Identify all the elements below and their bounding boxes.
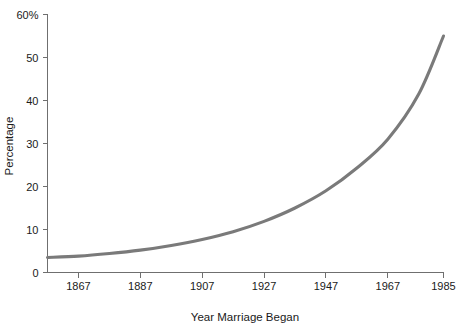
x-axis-ticks: [78, 273, 443, 278]
x-tick-label: 1985: [431, 280, 455, 292]
data-curve-percentage: [48, 36, 444, 257]
line-chart: 0102030405060% 1867188719071927194719671…: [0, 0, 467, 326]
y-tick-label: 0: [32, 267, 38, 279]
data-series-group: [48, 36, 444, 257]
y-axis-ticks: [43, 15, 48, 273]
y-tick-label: 10: [26, 224, 38, 236]
x-axis-tick-labels: 1867188719071927194719671985: [66, 280, 456, 292]
x-tick-label: 1967: [376, 280, 400, 292]
y-tick-label: 20: [26, 181, 38, 193]
y-axis: 0102030405060%: [16, 9, 47, 279]
y-axis-tick-labels: 0102030405060%: [16, 9, 38, 279]
x-axis-title: Year Marriage Began: [191, 311, 299, 323]
y-tick-label: 60%: [16, 9, 38, 21]
y-tick-label: 50: [26, 52, 38, 64]
y-tick-label: 30: [26, 138, 38, 150]
x-axis: 1867188719071927194719671985: [48, 273, 456, 292]
x-tick-label: 1947: [314, 280, 338, 292]
y-tick-label: 40: [26, 95, 38, 107]
chart-figure: 0102030405060% 1867188719071927194719671…: [0, 0, 467, 326]
x-tick-label: 1927: [252, 280, 276, 292]
x-tick-label: 1867: [66, 280, 90, 292]
x-tick-label: 1887: [128, 280, 152, 292]
x-tick-label: 1907: [190, 280, 214, 292]
y-axis-title: Percentage: [3, 117, 15, 176]
